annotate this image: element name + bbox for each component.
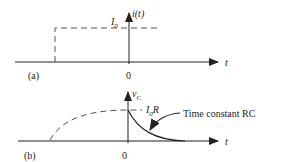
- dashed-step: [55, 28, 158, 62]
- panel-label: (b): [24, 150, 36, 162]
- x-label: t: [225, 57, 228, 68]
- y-label: vC: [132, 88, 141, 102]
- annotation-arrow: [150, 113, 180, 130]
- y-label: i(t): [132, 8, 145, 20]
- origin-label: 0: [126, 70, 131, 81]
- annotation: Time constant RC: [183, 108, 256, 119]
- panel-a: (a) 0 t i(t) I0: [15, 8, 228, 82]
- figure: (a) 0 t i(t) I0 Time constant RC (b) 0 t…: [0, 0, 285, 162]
- level-label: I0R: [145, 104, 159, 118]
- x-label: t: [225, 136, 228, 147]
- panel-b: Time constant RC (b) 0 t vC I0R: [18, 88, 256, 162]
- origin-label: 0: [122, 150, 127, 161]
- panel-label: (a): [28, 70, 39, 82]
